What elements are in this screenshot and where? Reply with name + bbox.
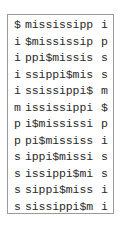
- middle-chars: mississipp: [25, 17, 101, 34]
- first-column-char: s: [14, 149, 25, 166]
- last-column-char: m: [101, 83, 109, 100]
- middle-chars: ississippi: [25, 100, 101, 117]
- first-column-char: $: [14, 17, 25, 34]
- bwt-matrix: $mississippi i$mississipp ippi$mississ i…: [7, 14, 114, 214]
- matrix-row: $mississippi: [14, 17, 113, 34]
- first-column-char: s: [14, 166, 25, 183]
- middle-chars: issippi$mi: [25, 166, 101, 183]
- last-column-char: s: [101, 166, 109, 183]
- matrix-row: ississippi$m: [14, 83, 113, 100]
- last-column-char: i: [101, 17, 109, 34]
- first-column-char: i: [14, 83, 25, 100]
- last-column-char: s: [101, 149, 109, 166]
- matrix-row: issippi$miss: [14, 67, 113, 84]
- middle-chars: sippi$miss: [25, 182, 101, 199]
- matrix-row: i$mississipp: [14, 34, 113, 51]
- last-column-char: p: [101, 116, 109, 133]
- middle-chars: pi$mississ: [25, 133, 101, 150]
- middle-chars: i$mississi: [25, 116, 101, 133]
- matrix-row: ppi$mississi: [14, 133, 113, 150]
- matrix-row: ssissippi$mi: [14, 199, 113, 216]
- first-column-char: s: [14, 182, 25, 199]
- middle-chars: sissippi$m: [25, 199, 101, 216]
- first-column-char: i: [14, 34, 25, 51]
- middle-chars: ssissippi$: [25, 83, 101, 100]
- first-column-char: i: [14, 50, 25, 67]
- last-column-char: i: [101, 199, 109, 216]
- last-column-char: s: [101, 50, 109, 67]
- last-column-char: s: [101, 67, 109, 84]
- first-column-char: m: [14, 100, 25, 117]
- matrix-row: sissippi$mis: [14, 166, 113, 183]
- middle-chars: ssippi$mis: [25, 67, 101, 84]
- last-column-char: p: [101, 34, 109, 51]
- first-column-char: i: [14, 67, 25, 84]
- last-column-char: $: [101, 100, 109, 117]
- matrix-row: pi$mississip: [14, 116, 113, 133]
- first-column-char: s: [14, 199, 25, 216]
- middle-chars: $mississip: [25, 34, 101, 51]
- last-column-char: i: [101, 133, 109, 150]
- matrix-row: ssippi$missi: [14, 182, 113, 199]
- matrix-row: sippi$missis: [14, 149, 113, 166]
- middle-chars: ppi$missis: [25, 50, 101, 67]
- first-column-char: p: [14, 133, 25, 150]
- matrix-row: ippi$mississ: [14, 50, 113, 67]
- first-column-char: p: [14, 116, 25, 133]
- middle-chars: ippi$missi: [25, 149, 101, 166]
- last-column-char: i: [101, 182, 109, 199]
- matrix-row: mississippi$: [14, 100, 113, 117]
